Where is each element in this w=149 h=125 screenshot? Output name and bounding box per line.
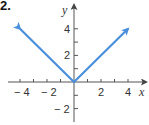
- x-tick-label: − 4: [14, 86, 30, 98]
- y-tick-label: 2: [64, 49, 70, 61]
- tick-labels: − 4− 22442− 2: [14, 23, 131, 115]
- x-tick-label: − 2: [41, 86, 57, 98]
- x-tick-label: 2: [98, 86, 104, 98]
- y-tick-label: 4: [64, 23, 70, 35]
- y-tick-label: − 2: [54, 103, 70, 115]
- graph: − 4− 22442− 2 x y: [0, 0, 149, 125]
- x-axis-label: x: [138, 85, 145, 99]
- axes: [8, 5, 146, 122]
- y-axis-label: y: [61, 3, 68, 17]
- x-tick-label: 4: [125, 86, 131, 98]
